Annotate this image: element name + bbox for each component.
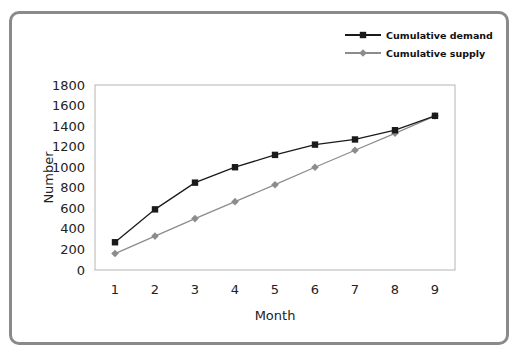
y-tick-label: 600	[60, 201, 85, 216]
x-axis-ticks: 123456789	[111, 282, 439, 297]
legend-label: Cumulative supply	[386, 48, 486, 59]
data-point	[112, 239, 118, 245]
legend-marker	[360, 32, 366, 38]
y-tick-label: 1800	[52, 78, 85, 93]
data-point	[392, 127, 398, 133]
data-point	[352, 136, 358, 142]
y-tick-label: 1200	[52, 139, 85, 154]
x-tick-label: 7	[351, 282, 359, 297]
y-tick-label: 200	[60, 242, 85, 257]
series-cumulative-demand	[112, 113, 438, 246]
y-tick-label: 800	[60, 180, 85, 195]
y-tick-label: 1400	[52, 119, 85, 134]
x-tick-label: 8	[391, 282, 399, 297]
data-point	[151, 232, 159, 240]
data-point	[191, 215, 199, 223]
plot-area	[95, 85, 455, 270]
data-point	[272, 152, 278, 158]
data-point	[432, 113, 438, 119]
x-tick-label: 5	[271, 282, 279, 297]
data-point	[192, 179, 198, 185]
y-tick-label: 1600	[52, 98, 85, 113]
legend-item: Cumulative demand	[345, 30, 493, 41]
data-point	[312, 141, 318, 147]
x-tick-label: 2	[151, 282, 159, 297]
series-line	[115, 116, 435, 242]
data-point	[311, 163, 319, 171]
x-tick-label: 6	[311, 282, 319, 297]
legend-marker	[359, 49, 367, 57]
x-axis-title: Month	[255, 308, 296, 323]
data-point	[232, 164, 238, 170]
x-tick-label: 3	[191, 282, 199, 297]
line-chart: 020040060080010001200140016001800 123456…	[0, 0, 517, 353]
data-point	[351, 146, 359, 154]
x-tick-label: 4	[231, 282, 239, 297]
y-tick-label: 0	[77, 263, 85, 278]
legend-label: Cumulative demand	[386, 30, 493, 41]
x-tick-label: 1	[111, 282, 119, 297]
y-axis-title: Number	[41, 151, 56, 204]
data-point	[152, 206, 158, 212]
series-cumulative-supply	[111, 112, 439, 257]
y-tick-label: 1000	[52, 160, 85, 175]
x-tick-label: 9	[431, 282, 439, 297]
y-axis-ticks: 020040060080010001200140016001800	[52, 78, 85, 278]
data-point	[271, 181, 279, 189]
data-point	[111, 250, 119, 258]
data-point	[231, 198, 239, 206]
legend: Cumulative demandCumulative supply	[345, 30, 493, 59]
legend-item: Cumulative supply	[345, 48, 486, 59]
series-layer	[111, 112, 439, 257]
y-tick-label: 400	[60, 221, 85, 236]
